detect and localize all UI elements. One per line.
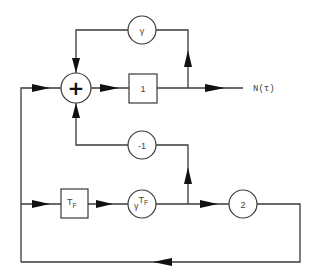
wire-top-feedback-left	[76, 30, 128, 73]
arrow-sum-to-gain	[100, 84, 119, 92]
neg-one-label: -1	[138, 141, 146, 151]
arrow-delay-to-gammatf	[96, 200, 113, 208]
sum-node: +	[61, 73, 91, 103]
arrow-return-left	[153, 258, 172, 266]
neg-one-node: -1	[128, 131, 156, 159]
arrow-to-two	[200, 200, 218, 208]
arrow-up-neg-feedback	[184, 167, 192, 184]
arrow-up-into-sum	[72, 103, 80, 118]
arrow-up-top-feedback	[184, 50, 192, 67]
two-node: 2	[229, 190, 257, 218]
gamma-node: γ	[128, 16, 156, 44]
gamma-label: γ	[140, 26, 145, 36]
two-label: 2	[240, 200, 245, 210]
gamma-tf-node: γTF	[128, 190, 156, 218]
block-diagram: + 1 γ -1 TF γTF 2 N(τ)	[0, 0, 315, 277]
arrow-output	[205, 84, 225, 92]
gain-one-label: 1	[140, 84, 145, 94]
wire-top-feedback-right	[156, 30, 188, 88]
arrow-down-into-sum	[72, 58, 80, 73]
wire-left-bus	[21, 88, 61, 262]
wire-neg-feedback-right	[156, 145, 188, 204]
gain-one-box: 1	[129, 74, 157, 103]
output-label: N(τ)	[253, 84, 275, 94]
delay-box: TF	[61, 189, 88, 218]
arrow-left-into-sum	[32, 84, 50, 92]
arrow-bus-to-delay	[32, 200, 50, 208]
plus-symbol: +	[68, 76, 85, 100]
wire-neg-feedback-left	[76, 103, 128, 145]
